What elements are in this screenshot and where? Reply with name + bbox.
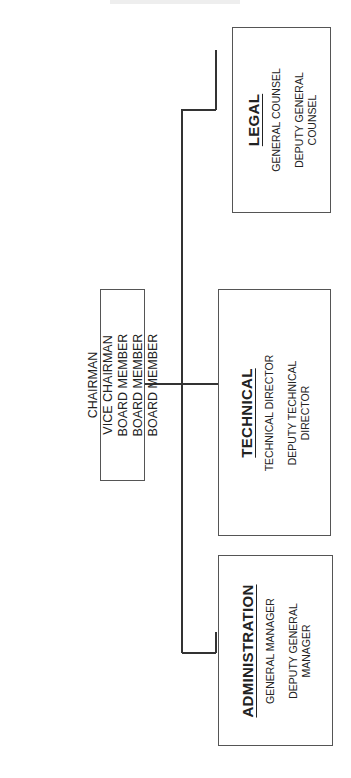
administration-content: ADMINISTRATION GENERAL MANAGER DEPUTY GE…: [239, 584, 313, 717]
board-member-vice-chairman: VICE CHAIRMAN: [100, 334, 115, 437]
administration-role-2: DEPUTY GENERAL MANAGER: [287, 596, 313, 706]
admin-connector-v: [215, 632, 217, 653]
administration-role-1: GENERAL MANAGER: [264, 584, 277, 717]
admin-connector-h: [182, 652, 216, 654]
administration-box: ADMINISTRATION GENERAL MANAGER DEPUTY GE…: [218, 555, 333, 746]
board-member: BOARD MEMBER: [145, 334, 160, 437]
legal-role-1: GENERAL COUNSEL: [270, 65, 283, 175]
legal-heading: LEGAL: [245, 65, 262, 175]
legal-box: LEGAL GENERAL COUNSEL DEPUTY GENERAL COU…: [232, 27, 331, 213]
technical-heading: TECHNICAL: [238, 348, 255, 478]
board-box: CHAIRMAN VICE CHAIRMAN BOARD MEMBER BOAR…: [100, 289, 145, 481]
board-member: BOARD MEMBER: [130, 334, 145, 437]
legal-content: LEGAL GENERAL COUNSEL DEPUTY GENERAL COU…: [245, 65, 319, 175]
main-vertical-connector: [181, 109, 183, 653]
legal-role-2: DEPUTY GENERAL COUNSEL: [293, 65, 319, 175]
legal-connector-h: [182, 109, 216, 111]
technical-content: TECHNICAL TECHNICAL DIRECTOR DEPUTY TECH…: [238, 348, 312, 478]
board-member: BOARD MEMBER: [115, 334, 130, 437]
board-members: CHAIRMAN VICE CHAIRMAN BOARD MEMBER BOAR…: [85, 334, 160, 437]
board-member-chairman: CHAIRMAN: [85, 334, 100, 437]
legal-connector-v: [215, 50, 217, 110]
technical-role-1: TECHNICAL DIRECTOR: [263, 348, 276, 478]
technical-box: TECHNICAL TECHNICAL DIRECTOR DEPUTY TECH…: [218, 289, 331, 536]
administration-heading: ADMINISTRATION: [239, 584, 256, 717]
technical-connector: [182, 383, 218, 385]
technical-role-2: DEPUTY TECHNICAL DIRECTOR: [286, 348, 312, 478]
cropped-title-remnant: [110, 0, 240, 4]
